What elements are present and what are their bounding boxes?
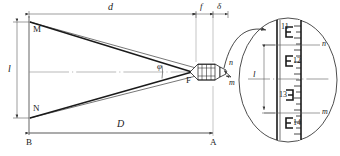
label-d: d	[108, 2, 113, 12]
point-F: F	[186, 76, 191, 85]
dimension-l	[13, 22, 31, 118]
label-m-detail: m	[322, 108, 328, 116]
telescope-body	[190, 64, 226, 80]
graduation-11: 11	[281, 23, 289, 31]
point-N: N	[33, 104, 40, 113]
label-delta: δ	[217, 2, 221, 11]
label-n-main: n	[229, 59, 233, 67]
label-D: D	[117, 119, 124, 129]
label-m-main: m	[229, 79, 235, 87]
sight-rays	[30, 22, 196, 118]
label-n-detail: n	[322, 40, 326, 48]
label-f: f	[200, 2, 203, 11]
point-M: M	[33, 25, 41, 34]
graduation-13: 13	[279, 91, 287, 99]
point-B: B	[26, 138, 32, 147]
optical-distance-diagram	[0, 0, 340, 156]
label-l-left: l	[8, 64, 11, 74]
point-A: A	[210, 138, 217, 147]
label-phi: φ	[157, 62, 162, 71]
label-l-detail: l	[253, 70, 256, 79]
graduation-12: 12	[293, 57, 301, 65]
tick-marks-top	[29, 11, 228, 18]
graduation-14: 14	[293, 119, 301, 127]
